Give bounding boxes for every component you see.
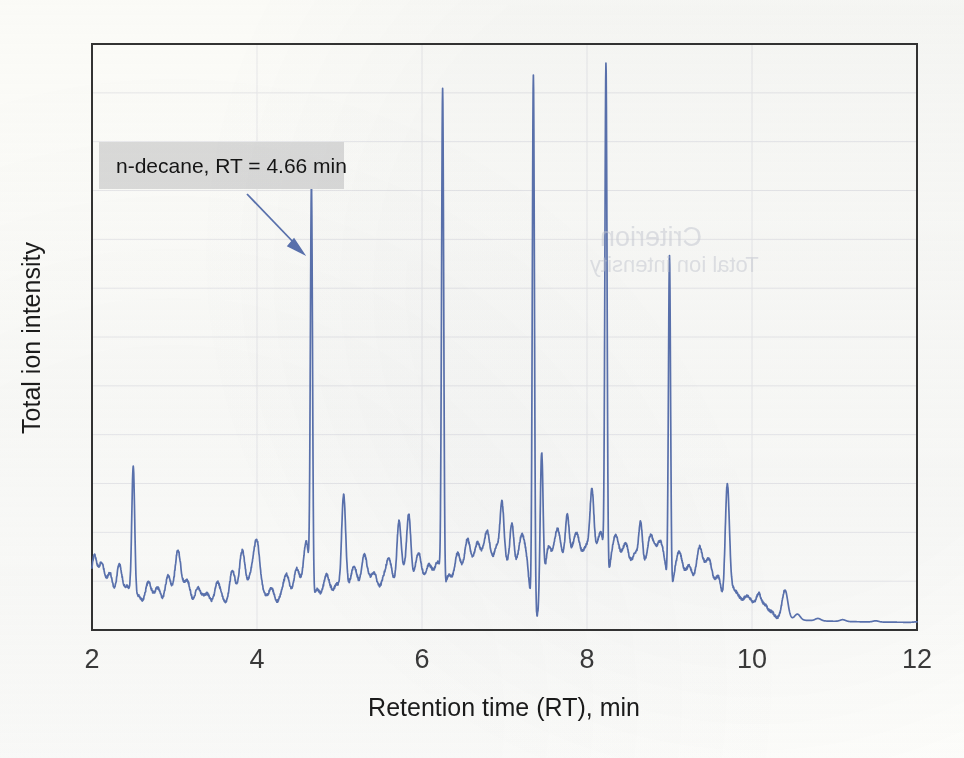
x-tick-label: 8 [579,644,594,674]
x-axis-label: Retention time (RT), min [368,693,640,721]
x-tick-label: 2 [84,644,99,674]
x-tick-label: 4 [249,644,264,674]
figure-background [0,0,964,758]
chromatogram-figure: 24681012 Retention time (RT), min Total … [0,0,964,758]
x-tick-label: 12 [902,644,932,674]
annotation-label: n-decane, RT = 4.66 min [116,154,347,177]
y-axis-label: Total ion intensity [17,242,45,434]
x-tick-label: 10 [737,644,767,674]
x-tick-label: 6 [414,644,429,674]
chromatogram-svg: 24681012 Retention time (RT), min Total … [0,0,964,758]
